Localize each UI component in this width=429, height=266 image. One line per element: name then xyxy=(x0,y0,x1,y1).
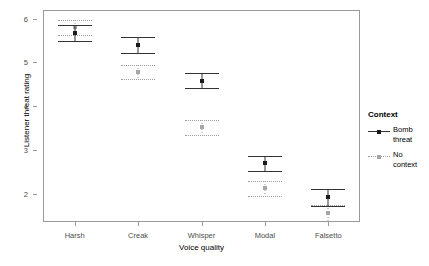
y-tick-label: 6 xyxy=(24,14,28,23)
x-tick-label: Creak xyxy=(128,231,148,240)
error-bar-cap xyxy=(121,37,155,38)
y-tick-mark xyxy=(33,150,37,151)
x-tick-label: Harsh xyxy=(65,231,85,240)
error-bar-cap xyxy=(248,171,282,172)
error-bar-cap xyxy=(185,120,219,121)
legend-label-bomb-threat: Bomb threat xyxy=(393,125,413,144)
plot-area xyxy=(43,10,360,222)
error-bar-cap xyxy=(121,79,155,80)
legend-label-line1: No xyxy=(393,150,403,159)
y-tick-mark xyxy=(33,62,37,63)
error-bar-cap xyxy=(248,156,282,157)
legend-title: Context xyxy=(368,110,429,119)
y-tick-mark xyxy=(33,106,37,107)
error-bar-cap xyxy=(311,189,345,190)
legend-item-bomb-threat[interactable]: Bomb threat xyxy=(368,125,429,144)
legend-item-no-context[interactable]: No context xyxy=(368,150,429,169)
data-point[interactable] xyxy=(326,195,330,199)
error-bar-cap xyxy=(121,53,155,54)
x-axis-title: Voice quality xyxy=(43,243,360,252)
chart-root: Listener threat rating 23456 HarshCreakW… xyxy=(0,0,429,266)
y-tick-label: 2 xyxy=(24,189,28,198)
error-bar-cap xyxy=(58,41,92,42)
error-bar-cap xyxy=(185,135,219,136)
error-bar-cap xyxy=(185,88,219,89)
y-tick-mark xyxy=(33,19,37,20)
error-bar-cap xyxy=(311,206,345,207)
legend: Context Bomb threat No context xyxy=(368,110,429,175)
x-tick-mark xyxy=(75,222,76,226)
legend-label-no-context: No context xyxy=(393,150,417,169)
data-point[interactable] xyxy=(73,31,77,35)
legend-label-line2: threat xyxy=(393,135,412,144)
x-tick-label: Modal xyxy=(255,231,275,240)
x-tick-mark xyxy=(328,222,329,226)
data-point[interactable] xyxy=(136,43,140,47)
error-bar-cap xyxy=(248,196,282,197)
y-tick-label: 4 xyxy=(24,102,28,111)
y-tick-label: 5 xyxy=(24,58,28,67)
legend-label-line1: Bomb xyxy=(393,125,413,134)
data-point[interactable] xyxy=(326,211,330,215)
legend-label-line2: context xyxy=(393,160,417,169)
x-tick-mark xyxy=(265,222,266,226)
x-tick-label: Falsetto xyxy=(315,231,342,240)
x-tick-mark xyxy=(202,222,203,226)
y-tick-label: 3 xyxy=(24,145,28,154)
x-tick-mark xyxy=(138,222,139,226)
y-axis-ticks: 23456 xyxy=(0,10,37,222)
data-point[interactable] xyxy=(200,125,204,129)
data-point[interactable] xyxy=(263,161,267,165)
error-bar-cap xyxy=(58,25,92,26)
error-bar-cap xyxy=(58,20,92,21)
legend-key-dashed-icon xyxy=(368,151,390,162)
data-point[interactable] xyxy=(263,186,267,190)
y-tick-mark xyxy=(33,194,37,195)
error-bar-cap xyxy=(121,65,155,66)
error-bar-cap xyxy=(248,181,282,182)
x-tick-label: Whisper xyxy=(188,231,216,240)
error-bar-cap xyxy=(185,73,219,74)
data-point[interactable] xyxy=(136,70,140,74)
legend-key-solid-icon xyxy=(368,126,390,137)
data-point[interactable] xyxy=(200,79,204,83)
